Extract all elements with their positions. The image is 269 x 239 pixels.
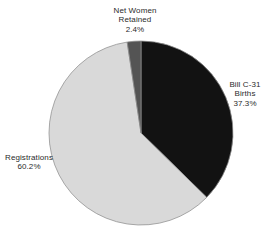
label-line: Births xyxy=(222,89,268,98)
label-line: 2.4% xyxy=(104,25,166,34)
label-line: Bill C-31 xyxy=(222,80,268,89)
pie-chart-figure: Net Women Retained 2.4% Bill C-31 Births… xyxy=(0,0,269,239)
label-bill-c31-births: Bill C-31 Births 37.3% xyxy=(222,80,268,108)
label-net-women-retained: Net Women Retained 2.4% xyxy=(104,6,166,34)
label-line: Registrations xyxy=(0,153,58,162)
label-registrations: Registrations 60.2% xyxy=(0,153,58,172)
label-line: 37.3% xyxy=(222,99,268,108)
label-line: 60.2% xyxy=(0,162,58,171)
label-line: Net Women xyxy=(104,6,166,15)
pie-chart xyxy=(0,0,269,239)
label-line: Retained xyxy=(104,15,166,24)
